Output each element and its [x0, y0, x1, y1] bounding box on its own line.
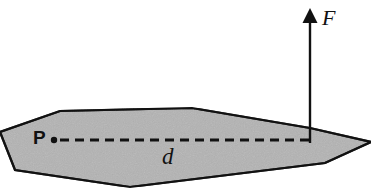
force-vector-arrowhead	[303, 8, 318, 23]
force-vector-label: F	[322, 7, 335, 29]
physics-figure-canvas: P d F	[0, 0, 371, 191]
moment-arm-label: d	[162, 145, 174, 168]
pivot-point-label: P	[33, 128, 46, 147]
figure-vector-graphics	[0, 0, 371, 191]
pivot-point-dot	[51, 137, 57, 143]
